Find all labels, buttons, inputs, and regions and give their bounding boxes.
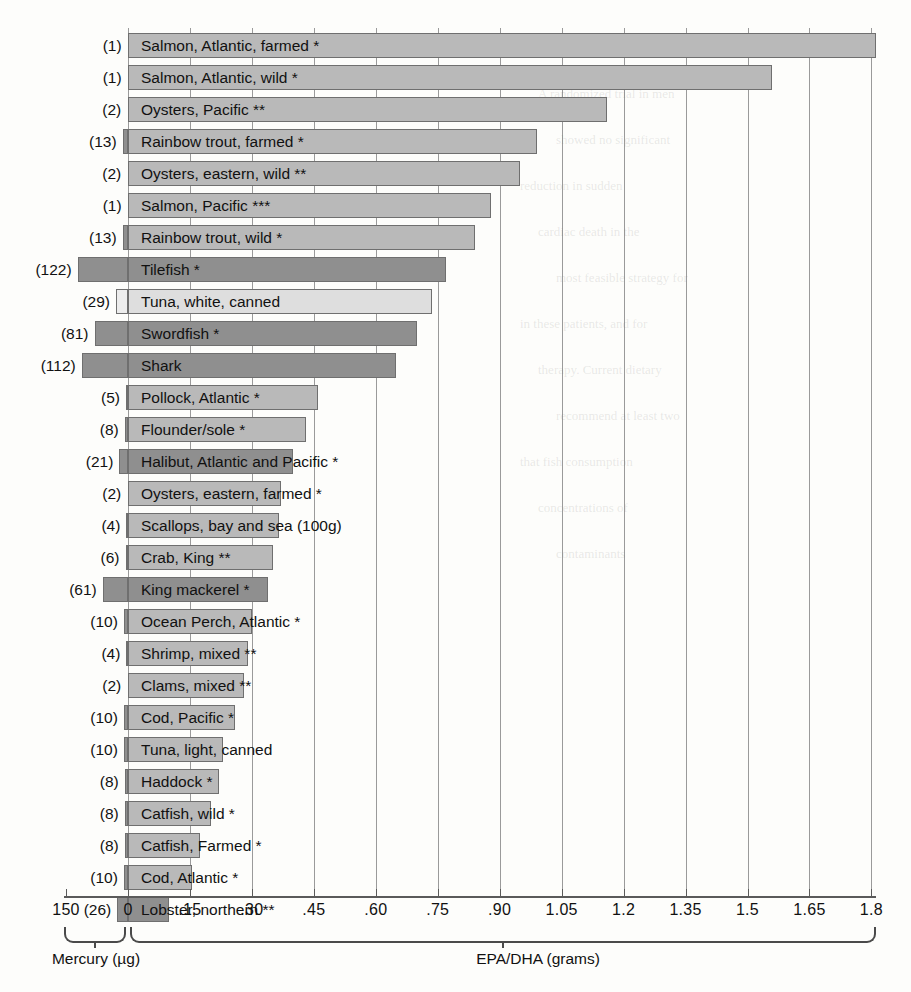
tick-label-1p05: 1.05	[532, 901, 592, 919]
tick-label-1p2: 1.2	[594, 901, 654, 919]
bar-row: (112)Shark	[0, 350, 911, 382]
bar-row: (4)Shrimp, mixed **	[0, 638, 911, 670]
bar-row: (5)Pollock, Atlantic *	[0, 382, 911, 414]
species-label: Halibut, Atlantic and Pacific *	[134, 449, 338, 474]
bar-row: (13)Rainbow trout, farmed *	[0, 126, 911, 158]
species-label: Salmon, Atlantic, farmed *	[134, 33, 319, 58]
bar-row: (8)Haddock *	[0, 766, 911, 798]
species-label: Catfish, wild *	[134, 801, 235, 826]
tick-label-p60: .60	[346, 901, 406, 919]
species-label: Rainbow trout, wild *	[134, 225, 282, 250]
bar-row: (2)Oysters, eastern, farmed *	[0, 478, 911, 510]
tick-1p5	[748, 889, 749, 898]
mercury-value-label: (122)	[2, 254, 72, 286]
mercury-value-label: (8)	[49, 766, 119, 798]
species-label: Salmon, Pacific ***	[134, 193, 270, 218]
bar-row: (81)Swordfish *	[0, 318, 911, 350]
bar-row: (1)Salmon, Pacific ***	[0, 190, 911, 222]
mercury-value-label: (13)	[47, 126, 117, 158]
mercury-value-label: (10)	[48, 734, 118, 766]
tick-1p05	[562, 889, 563, 898]
epa-axis-title: EPA/DHA (grams)	[438, 950, 638, 968]
mercury-value-label: (61)	[27, 574, 97, 606]
mercury-value-label: (112)	[6, 350, 76, 382]
bar-row: (8)Flounder/sole *	[0, 414, 911, 446]
species-label: Catfish, Farmed *	[134, 833, 262, 858]
bar-row: (2)Oysters, eastern, wild **	[0, 158, 911, 190]
mercury-value-label: (8)	[49, 798, 119, 830]
fish-epa-dha-mercury-chart: the rest of the pageA randomized trial i…	[0, 0, 911, 992]
mercury-value-label: (13)	[47, 222, 117, 254]
species-label: Crab, King **	[134, 545, 231, 570]
bar-row: (1)Salmon, Atlantic, farmed *	[0, 30, 911, 62]
bar-row: (13)Rainbow trout, wild *	[0, 222, 911, 254]
mercury-value-label: (2)	[51, 478, 121, 510]
species-label: Shrimp, mixed **	[134, 641, 256, 666]
mercury-bar	[116, 289, 128, 314]
tick-150ug	[66, 889, 67, 898]
species-label: Salmon, Atlantic, wild *	[134, 65, 298, 90]
mercury-bar	[119, 449, 128, 474]
epa-axis-brace	[130, 927, 876, 943]
tick-0	[128, 889, 129, 898]
mercury-axis-brace	[64, 927, 126, 943]
bar-row: (10)Tuna, light, canned	[0, 734, 911, 766]
species-label: Scallops, bay and sea (100g)	[134, 513, 342, 538]
tick-label-p45: .45	[284, 901, 344, 919]
species-label: Rainbow trout, farmed *	[134, 129, 304, 154]
mercury-axis-title: Mercury (µg)	[31, 950, 161, 968]
bar-row: (10)Ocean Perch, Atlantic *	[0, 606, 911, 638]
species-label: Tuna, white, canned	[134, 289, 280, 314]
species-label: Ocean Perch, Atlantic *	[134, 609, 300, 634]
bar-row: (29)Tuna, white, canned	[0, 286, 911, 318]
mercury-value-label: (8)	[49, 414, 119, 446]
mercury-value-label: (1)	[52, 62, 122, 94]
species-label: Oysters, eastern, wild **	[134, 161, 306, 186]
mercury-bar	[78, 257, 128, 282]
species-label: Oysters, Pacific **	[134, 97, 265, 122]
mercury-value-label: (1)	[52, 30, 122, 62]
species-label: Oysters, eastern, farmed *	[134, 481, 322, 506]
tick-p75	[438, 889, 439, 898]
tick-p90	[500, 889, 501, 898]
tick-label-1p65: 1.65	[779, 901, 839, 919]
mercury-value-label: (2)	[51, 94, 121, 126]
species-label: Tuna, light, canned	[134, 737, 272, 762]
species-label: Pollock, Atlantic *	[134, 385, 260, 410]
mercury-value-label: (6)	[50, 542, 120, 574]
tick-1p2	[624, 889, 625, 898]
bar-row: (10)Cod, Pacific *	[0, 702, 911, 734]
species-label: Clams, mixed **	[134, 673, 251, 698]
tick-label-1p5: 1.5	[718, 901, 778, 919]
tick-p60	[376, 889, 377, 898]
bar-row: (2)Oysters, Pacific **	[0, 94, 911, 126]
species-label: King mackerel *	[134, 577, 250, 602]
mercury-value-label: (8)	[49, 830, 119, 862]
mercury-bar	[95, 321, 128, 346]
species-label: Lobster, northern **	[134, 897, 275, 922]
species-label: Cod, Atlantic *	[134, 865, 238, 890]
species-label: Flounder/sole *	[134, 417, 245, 442]
tick-label-1p35: 1.35	[656, 901, 716, 919]
tick-1p65	[809, 889, 810, 898]
tick-label-p75: .75	[408, 901, 468, 919]
bar-row: (4)Scallops, bay and sea (100g)	[0, 510, 911, 542]
tick-label-150ug: 150	[36, 901, 96, 919]
mercury-bar	[82, 353, 128, 378]
mercury-value-label: (10)	[48, 702, 118, 734]
mercury-value-label: (10)	[48, 862, 118, 894]
tick-p45	[314, 889, 315, 898]
species-label: Haddock *	[134, 769, 213, 794]
bar-row: (2)Clams, mixed **	[0, 670, 911, 702]
mercury-value-label: (4)	[50, 638, 120, 670]
bar-row: (10)Cod, Atlantic *	[0, 862, 911, 894]
mercury-bar	[103, 577, 128, 602]
mercury-value-label: (4)	[50, 510, 120, 542]
mercury-value-label: (29)	[40, 286, 110, 318]
species-label: Shark	[134, 353, 182, 378]
tick-label-1p8: 1.8	[841, 901, 901, 919]
tick-1p8	[871, 889, 872, 898]
mercury-value-label: (81)	[19, 318, 89, 350]
bar-row: (6)Crab, King **	[0, 542, 911, 574]
mercury-value-label: (10)	[48, 606, 118, 638]
